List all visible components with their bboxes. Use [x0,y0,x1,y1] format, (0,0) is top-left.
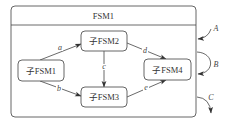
state-label: 子FSM4 [152,65,183,75]
external-transition-c: C [197,93,214,113]
state-sub-fsm2: 子FSM2 [81,31,127,51]
state-label: 子FSM2 [89,36,119,46]
state-sub-fsm3: 子FSM3 [81,87,127,107]
self-loop-arrow-b [197,52,211,74]
parent-state-title: FSM1 [93,11,114,21]
external-label-b: B [214,60,219,69]
state-label: 子FSM3 [89,92,119,102]
transition-label-a: a [58,43,62,52]
transition-label-c: c [102,62,106,71]
fsm-diagram: FSM1 a b c d e 子FSM1 子FSM2 子FSM3 [0,0,230,123]
transition-label-b: b [57,84,61,93]
state-label: 子FSM1 [26,66,56,76]
state-sub-fsm4: 子FSM4 [144,59,191,80]
external-label-c: C [208,93,214,102]
entry-arrow-a [198,29,211,39]
external-label-a: A [213,24,219,33]
external-transition-b: B [197,52,219,74]
state-sub-fsm1: 子FSM1 [18,60,64,81]
external-transition-a: A [198,24,219,39]
transition-label-e: e [144,83,148,92]
